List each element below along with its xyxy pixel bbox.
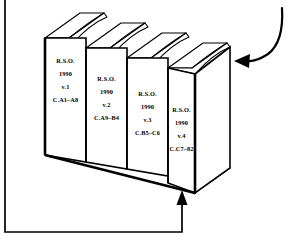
book-1-line-3: v.1 xyxy=(62,83,70,90)
book-4-spine-face xyxy=(168,68,195,193)
book-4-line-4: C.C7–82 xyxy=(170,145,194,152)
book-3-line-1: R.S.O. xyxy=(138,90,157,97)
book-3-line-3: v.3 xyxy=(144,116,152,123)
book-1-line-2: 1990 xyxy=(59,70,72,77)
top-arrow-shaft xyxy=(247,8,282,61)
figure-canvas: R.S.O. 1990 v.1 C.A1–A8 R.S.O. 1990 v.2 … xyxy=(0,0,287,246)
book-4-line-3: v.4 xyxy=(178,132,187,139)
top-arrow-annotation xyxy=(234,8,282,68)
book-2-line-3: v.2 xyxy=(103,101,111,108)
top-arrow-head xyxy=(234,54,250,68)
book-4-line-1: R.S.O. xyxy=(172,106,191,113)
book-4-line-2: 1990 xyxy=(175,119,188,126)
book-4: R.S.O. 1990 v.4 C.C7–82 xyxy=(168,43,230,193)
book-shelf-figure: R.S.O. 1990 v.1 C.A1–A8 R.S.O. 1990 v.2 … xyxy=(0,0,287,246)
book-2-line-1: R.S.O. xyxy=(97,75,116,82)
bottom-arrow-head xyxy=(177,190,188,205)
book-1-line-4: C.A1–A8 xyxy=(53,96,78,103)
book-3-line-2: 1990 xyxy=(141,103,154,110)
book-2-line-4: C.A9–B4 xyxy=(94,114,120,121)
book-1-line-1: R.S.O. xyxy=(56,57,75,64)
book-2-spine-face xyxy=(86,48,127,169)
book-3-line-4: C.B5–C6 xyxy=(135,129,160,136)
book-2-line-2: 1990 xyxy=(100,88,113,95)
